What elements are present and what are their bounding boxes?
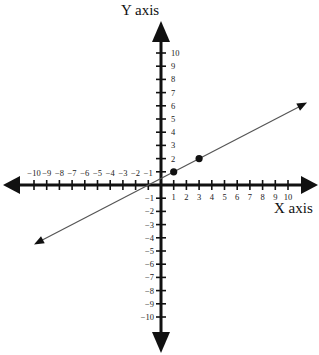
x-tick-label: −3	[118, 168, 127, 178]
y-tick-label: −7	[145, 272, 154, 282]
y-tick-label: 7	[171, 88, 175, 98]
x-tick-label: −5	[93, 168, 102, 178]
x-tick-label: 5	[222, 192, 226, 202]
y-tick-label: 10	[171, 48, 180, 58]
coordinate-plane: −10−9−8−7−6−5−4−3−2−112345678910−10−9−8−…	[0, 0, 319, 355]
y-tick-label: 3	[171, 140, 175, 150]
y-tick-label: −10	[141, 312, 154, 322]
line-end-arrow-icon	[296, 103, 307, 111]
x-tick-label: 4	[210, 192, 215, 202]
y-tick-label: −3	[145, 220, 154, 230]
y-axis-down-arrow-icon	[152, 332, 170, 353]
y-tick-label: −4	[145, 233, 155, 243]
y-tick-label: 5	[171, 114, 175, 124]
y-tick-label: 4	[171, 127, 176, 137]
x-tick-label: 8	[260, 192, 264, 202]
x-tick-label: 1	[172, 192, 176, 202]
x-tick-label: −7	[68, 168, 77, 178]
y-tick-label: −1	[145, 193, 154, 203]
x-tick-label: −4	[106, 168, 116, 178]
y-tick-label: −6	[145, 259, 154, 269]
y-tick-label: 9	[171, 61, 175, 71]
x-tick-label: −1	[144, 168, 153, 178]
x-tick-label: 3	[197, 192, 201, 202]
data-point	[170, 168, 177, 175]
x-axis-label: X axis	[274, 200, 313, 217]
y-axis-label: Y axis	[121, 2, 159, 19]
x-tick-label: −6	[80, 168, 89, 178]
line-start-arrow-icon	[34, 236, 45, 244]
x-tick-label: 2	[184, 192, 188, 202]
y-tick-label: 8	[171, 74, 175, 84]
x-axis-left-arrow-icon	[3, 176, 20, 194]
y-tick-label: −2	[145, 206, 154, 216]
x-tick-label: 7	[248, 192, 252, 202]
y-tick-label: −8	[145, 286, 154, 296]
x-tick-label: −8	[55, 168, 64, 178]
x-tick-label: 6	[235, 192, 239, 202]
y-tick-label: −5	[145, 246, 154, 256]
x-tick-label: −10	[27, 168, 40, 178]
y-tick-label: 2	[171, 154, 175, 164]
data-point	[196, 155, 203, 162]
x-tick-label: −2	[131, 168, 140, 178]
x-tick-label: −9	[42, 168, 51, 178]
y-tick-label: −9	[145, 299, 154, 309]
y-axis-up-arrow-icon	[152, 21, 170, 42]
y-tick-label: 6	[171, 101, 175, 111]
x-axis-right-arrow-icon	[301, 176, 318, 194]
